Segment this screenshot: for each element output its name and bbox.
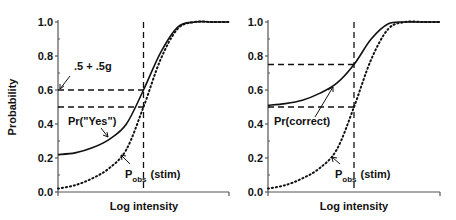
annotation-pr-yes: Pr("Yes") — [68, 115, 117, 127]
y-tick-label: 0.8 — [248, 50, 263, 62]
y-tick-label: 0.0 — [38, 186, 53, 198]
y-tick-label: 0.4 — [38, 118, 54, 130]
annotation-pobs-p: Pobs(stim) — [335, 168, 391, 184]
annotation-pr-yes-arrow — [101, 128, 108, 137]
x-axis-label: Log intensity — [320, 200, 389, 212]
y-tick-label: 1.0 — [248, 16, 263, 28]
y-tick-label: 0.6 — [248, 84, 263, 96]
y-tick-label: 0.4 — [248, 118, 264, 130]
y-axis-label: Probability — [6, 78, 18, 136]
y-tick-label: 1.0 — [38, 16, 53, 28]
y-tick-label: 0.6 — [38, 84, 53, 96]
annotation-guess-arrow — [60, 76, 70, 89]
y-tick-label: 0.0 — [248, 186, 263, 198]
annotation-guess: .5 + .5g — [74, 60, 112, 72]
right-panel: Log intensity Pr(correct) Pobs(stim) 0.0… — [248, 16, 440, 212]
annotation-pobs-p: Pobs(stim) — [125, 168, 181, 184]
y-tick-label: 0.2 — [248, 152, 263, 164]
figure: Probability Log intensity .5 + .5g Pr("Y… — [0, 0, 456, 220]
annotation-pr-correct: Pr(correct) — [274, 115, 331, 127]
y-tick-label: 0.8 — [38, 50, 53, 62]
x-axis-label: Log intensity — [110, 200, 179, 212]
annotation-pobs-arrow — [332, 157, 340, 164]
y-tick-label: 0.2 — [38, 152, 53, 164]
left-panel: Probability Log intensity .5 + .5g Pr("Y… — [6, 16, 229, 212]
